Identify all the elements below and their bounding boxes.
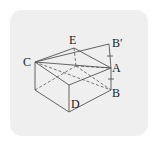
label-D: D xyxy=(71,97,80,111)
label-C: C xyxy=(23,55,31,69)
edge-CE xyxy=(35,48,74,62)
label-B: B xyxy=(112,86,120,100)
edge-bottom-left xyxy=(35,90,69,112)
edge-CA xyxy=(35,62,111,68)
label-B-prime: B′ xyxy=(112,36,123,50)
hidden-edge-E-vertical xyxy=(74,48,76,66)
geometry-figure: C E B′ A B D xyxy=(0,0,159,148)
label-A: A xyxy=(112,61,121,75)
hidden-edge-CB xyxy=(35,62,111,90)
hidden-edge-back-right xyxy=(76,66,111,90)
edge-top-front-left xyxy=(35,62,69,85)
label-E: E xyxy=(69,33,76,47)
